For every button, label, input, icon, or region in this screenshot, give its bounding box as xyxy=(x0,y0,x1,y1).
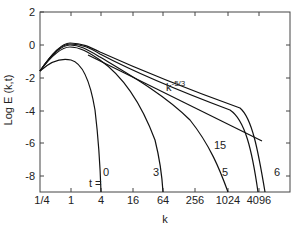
x-tick-label: 64 xyxy=(157,194,169,206)
y-tick-label: -8 xyxy=(25,170,35,182)
x-axis xyxy=(71,12,259,192)
y-axis-label: Log E (k,t) xyxy=(2,75,14,126)
x-tick-label: 1024 xyxy=(216,194,240,206)
x-tick-label: 256 xyxy=(186,194,204,206)
x-axis-label: k xyxy=(162,213,168,225)
y-axis xyxy=(40,12,290,176)
curve-label-5: 5 xyxy=(222,166,228,178)
x-tick-label: 4096 xyxy=(247,194,271,206)
curve-label-0: 0 xyxy=(103,166,109,178)
curve-label-6: 6 xyxy=(274,166,280,178)
curve-label-3: 3 xyxy=(153,166,159,178)
label-t-equals: t = xyxy=(89,177,102,189)
y-tick-label: 2 xyxy=(29,6,35,18)
x-tick-label: 1 xyxy=(68,194,74,206)
reference-k-5-3 xyxy=(88,55,262,141)
y-tick-label: -6 xyxy=(25,137,35,149)
y-tick-label: 0 xyxy=(29,39,35,51)
chart: 2 0 -2 -4 -6 -8 1/4 1 4 16 64 256 1024 4… xyxy=(0,0,298,229)
plot-frame xyxy=(40,12,290,192)
curve-t3 xyxy=(40,47,163,192)
annotation-k: k-5/3 xyxy=(166,79,186,93)
x-tick-label: 1/4 xyxy=(34,194,49,206)
y-tick-label: -4 xyxy=(25,105,35,117)
curve-label-15: 15 xyxy=(214,139,226,151)
x-tick-label: 4 xyxy=(98,194,104,206)
x-tick-label: 16 xyxy=(127,194,139,206)
curve-t0 xyxy=(40,59,101,192)
y-tick-label: -2 xyxy=(25,72,35,84)
